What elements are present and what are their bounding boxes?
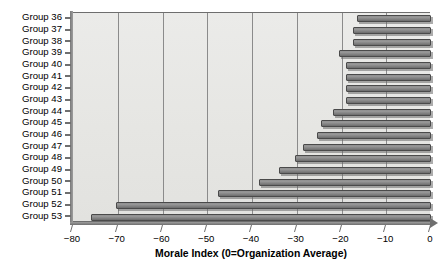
bar[interactable] bbox=[91, 214, 431, 221]
x-axis-title: Morale Index (0=Organization Average) bbox=[72, 248, 430, 259]
x-axis-tick bbox=[204, 225, 207, 232]
y-axis-tick bbox=[65, 99, 71, 101]
bar[interactable] bbox=[279, 167, 431, 174]
bar[interactable] bbox=[346, 97, 431, 104]
x-axis-tick bbox=[428, 225, 431, 232]
x-axis-tick-label: −80 bbox=[57, 233, 87, 244]
x-axis-tick bbox=[159, 225, 162, 232]
bar-row bbox=[73, 130, 430, 142]
x-axis-arrow-icon bbox=[430, 218, 438, 228]
bar[interactable] bbox=[339, 50, 431, 57]
plot-area bbox=[72, 12, 430, 222]
morale-index-bar-chart: Group 36Group 37Group 38Group 39Group 40… bbox=[0, 0, 446, 268]
y-axis-label-group-36: Group 36 bbox=[0, 12, 62, 22]
x-axis-tick-label: −70 bbox=[102, 233, 132, 244]
bar[interactable] bbox=[218, 190, 431, 197]
bar[interactable] bbox=[357, 15, 431, 22]
x-axis-tick-label: −40 bbox=[236, 233, 266, 244]
bar-row bbox=[73, 36, 430, 48]
bar[interactable] bbox=[295, 155, 431, 162]
bar[interactable] bbox=[353, 27, 431, 34]
y-axis-tick bbox=[65, 110, 71, 112]
bar[interactable] bbox=[116, 202, 431, 209]
bar[interactable] bbox=[346, 62, 431, 69]
bar[interactable] bbox=[346, 74, 431, 81]
y-axis-tick bbox=[65, 75, 71, 77]
bar-row bbox=[73, 48, 430, 60]
y-axis-tick bbox=[65, 180, 71, 182]
y-axis-label-group-50: Group 50 bbox=[0, 176, 62, 186]
bar-row bbox=[73, 165, 430, 177]
y-axis-tick bbox=[65, 17, 71, 19]
y-axis-label-group-47: Group 47 bbox=[0, 141, 62, 151]
bar-row bbox=[73, 106, 430, 118]
bar-row bbox=[73, 60, 430, 72]
bar[interactable] bbox=[303, 144, 431, 151]
x-axis-tick-label: −10 bbox=[370, 233, 400, 244]
y-axis-tick bbox=[65, 192, 71, 194]
bar-row bbox=[73, 200, 430, 212]
x-axis-tick-label: 0 bbox=[415, 233, 445, 244]
y-axis-tick bbox=[65, 134, 71, 136]
bar-row bbox=[73, 95, 430, 107]
bar-row bbox=[73, 118, 430, 130]
y-axis-tick bbox=[65, 122, 71, 124]
x-axis-tick-label: −60 bbox=[147, 233, 177, 244]
y-axis-tick bbox=[65, 204, 71, 206]
y-axis-label-group-44: Group 44 bbox=[0, 106, 62, 116]
bar-row bbox=[73, 141, 430, 153]
y-axis-label-group-42: Group 42 bbox=[0, 82, 62, 92]
y-axis-label-group-51: Group 51 bbox=[0, 187, 62, 197]
y-axis-label-group-45: Group 45 bbox=[0, 117, 62, 127]
x-axis-tick bbox=[70, 225, 73, 232]
y-axis-label-group-53: Group 53 bbox=[0, 211, 62, 221]
y-axis-tick bbox=[65, 169, 71, 171]
bar[interactable] bbox=[353, 39, 431, 46]
bar[interactable] bbox=[333, 109, 431, 116]
y-axis-label-group-39: Group 39 bbox=[0, 47, 62, 57]
bar-row bbox=[73, 83, 430, 95]
x-axis-tick bbox=[294, 225, 297, 232]
bar-row bbox=[73, 71, 430, 83]
y-axis-label-group-52: Group 52 bbox=[0, 199, 62, 209]
x-axis-tick bbox=[115, 225, 118, 232]
x-axis-tick bbox=[338, 225, 341, 232]
x-axis-tick-label: −20 bbox=[326, 233, 356, 244]
y-axis-label-group-46: Group 46 bbox=[0, 129, 62, 139]
y-axis-tick bbox=[65, 215, 71, 217]
bar-row bbox=[73, 25, 430, 37]
bar[interactable] bbox=[346, 85, 431, 92]
y-axis-label-group-40: Group 40 bbox=[0, 59, 62, 69]
y-axis-tick bbox=[65, 157, 71, 159]
bar[interactable] bbox=[321, 120, 431, 127]
y-axis-label-group-49: Group 49 bbox=[0, 164, 62, 174]
y-axis-label-group-37: Group 37 bbox=[0, 24, 62, 34]
y-axis-tick bbox=[65, 29, 71, 31]
y-axis-label-group-48: Group 48 bbox=[0, 152, 62, 162]
bar-row bbox=[73, 13, 430, 25]
bar[interactable] bbox=[259, 179, 431, 186]
y-axis-tick bbox=[65, 145, 71, 147]
y-axis-tick bbox=[65, 40, 71, 42]
x-axis-tick-label: −50 bbox=[191, 233, 221, 244]
y-axis-label-group-38: Group 38 bbox=[0, 36, 62, 46]
y-axis-tick bbox=[65, 64, 71, 66]
x-axis-tick-label: −30 bbox=[281, 233, 311, 244]
x-axis-tick bbox=[383, 225, 386, 232]
y-axis-label-group-43: Group 43 bbox=[0, 94, 62, 104]
bar-row bbox=[73, 153, 430, 165]
bar-row bbox=[73, 176, 430, 188]
y-axis-tick bbox=[65, 52, 71, 54]
y-axis-tick bbox=[65, 87, 71, 89]
bar[interactable] bbox=[317, 132, 431, 139]
y-axis-label-group-41: Group 41 bbox=[0, 71, 62, 81]
bars-layer bbox=[73, 13, 430, 221]
x-axis-tick bbox=[249, 225, 252, 232]
bar-row bbox=[73, 188, 430, 200]
